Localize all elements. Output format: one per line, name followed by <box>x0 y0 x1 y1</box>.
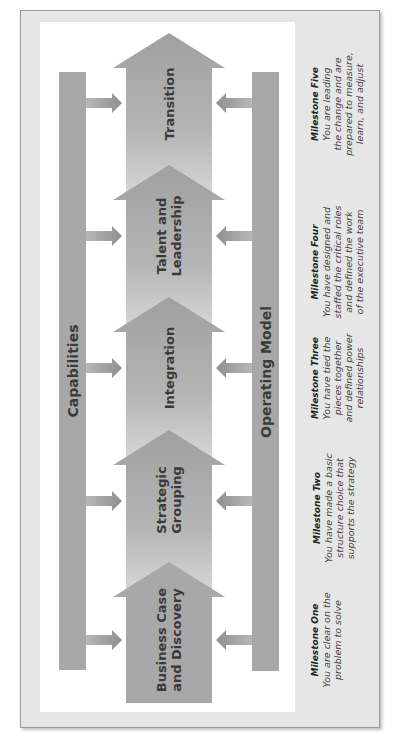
milestone-two: Milestone Two You have made a basic stru… <box>311 453 356 562</box>
stage-label-business-case: Business Case and Discovery <box>154 588 184 692</box>
capabilities-arrow-icon <box>86 358 122 378</box>
stage-label-transition: Transition <box>162 68 177 141</box>
operating-model-label: Operating Model <box>258 306 274 438</box>
stage-label-strategic-grouping: Strategic Grouping <box>154 466 184 534</box>
milestone-four: Milestone Four You have designed and sta… <box>309 206 365 319</box>
operating-model-arrow-icon <box>216 226 252 246</box>
capabilities-arrow-icon <box>86 226 122 246</box>
milestone-five: Milestone Five You are leading the chang… <box>309 52 365 156</box>
operating-model-arrow-icon <box>216 93 252 113</box>
stage-label-talent-leadership: Talent and Leadership <box>154 195 184 276</box>
capabilities-arrow-icon <box>86 630 122 650</box>
stage-label-integration: Integration <box>162 327 177 409</box>
capabilities-bar: Capabilities <box>59 72 86 670</box>
operating-model-arrow-icon <box>216 491 252 511</box>
operating-model-bar: Operating Model <box>252 72 279 671</box>
operating-model-arrow-icon <box>216 358 252 378</box>
operating-model-arrow-icon <box>216 630 252 650</box>
capabilities-label: Capabilities <box>65 325 81 418</box>
capabilities-arrow-icon <box>86 93 122 113</box>
capabilities-arrow-icon <box>86 491 122 511</box>
milestone-three: Milestone Three You have tied the pieces… <box>309 333 365 422</box>
milestone-one: Milestone One You are clear on the probl… <box>309 592 343 687</box>
